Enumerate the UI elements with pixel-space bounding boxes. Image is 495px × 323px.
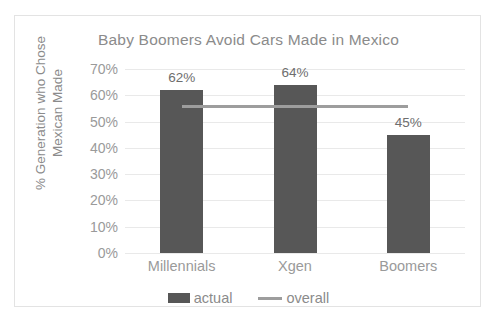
x-axis-tick-label-boomers: Boomers [379, 259, 437, 274]
y-axis-title: % Generation who Chose Mexican Made [32, 13, 66, 213]
plot-area: 70%60%50%40%30%20%10%0%62%64%45% [125, 69, 465, 253]
chart-title: Baby Boomers Avoid Cars Made in Mexico [15, 31, 482, 49]
x-axis-labels: MillennialsXgenBoomers [125, 259, 465, 281]
y-axis-title-line-1: % Generation who Chose [32, 36, 49, 190]
bar-boomers[interactable] [387, 135, 430, 253]
legend-label-overall: overall [286, 291, 329, 306]
chart-legend: actual overall [15, 291, 482, 306]
bar-value-label: 45% [395, 116, 422, 130]
y-axis-tick-label: 60% [90, 88, 118, 102]
gridline [125, 253, 465, 254]
bar-value-label: 62% [168, 71, 195, 85]
y-axis-tick-label: 20% [90, 193, 118, 207]
legend-bar-swatch-icon [168, 293, 190, 303]
y-axis-tick-label: 50% [90, 115, 118, 129]
chart-container: Baby Boomers Avoid Cars Made in Mexico %… [14, 15, 481, 307]
bar-xgen[interactable] [274, 85, 317, 253]
legend-item-overall[interactable]: overall [258, 291, 329, 306]
legend-item-actual[interactable]: actual [168, 291, 233, 306]
overall-average-line[interactable] [182, 105, 409, 108]
y-axis-tick-label: 30% [90, 167, 118, 181]
x-axis-tick-label-xgen: Xgen [278, 259, 312, 274]
y-axis-tick-label: 70% [90, 62, 118, 76]
y-axis-title-line-2: Mexican Made [49, 69, 66, 157]
bar-value-label: 64% [281, 66, 308, 80]
legend-line-swatch-icon [258, 297, 282, 300]
bar-millennials[interactable] [160, 90, 203, 253]
y-axis-tick-label: 0% [98, 246, 118, 260]
legend-label-actual: actual [194, 291, 233, 306]
y-axis-tick-label: 10% [90, 220, 118, 234]
y-axis-tick-label: 40% [90, 141, 118, 155]
x-axis-tick-label-millennials: Millennials [148, 259, 216, 274]
